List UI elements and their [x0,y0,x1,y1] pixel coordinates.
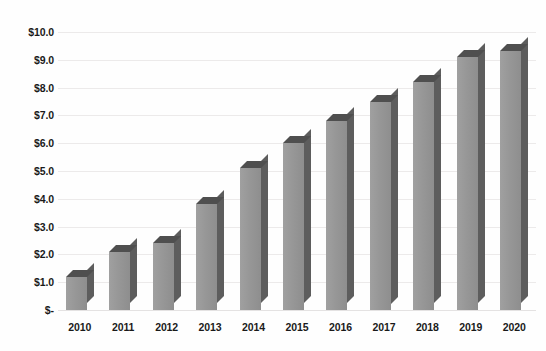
x-axis-tick-label: 2016 [329,321,352,333]
bar-side-face [391,88,398,304]
y-axis-tick-label: $6.0 [6,137,54,149]
bar-2012 [153,243,174,310]
x-axis-tick-label: 2015 [286,321,309,333]
bar-side-face [261,154,268,303]
y-axis-tick-label: $1.0 [6,276,54,288]
y-axis-tick-label: $- [6,304,54,316]
bar-front-face [240,168,261,310]
bar-side-face [87,263,94,303]
bar-2015 [283,143,304,310]
gridline [58,32,536,33]
bar-chart: $-$1.0$2.0$3.0$4.0$5.0$6.0$7.0$8.0$9.0$1… [0,0,546,351]
bar-2017 [370,102,391,311]
x-axis-tick-label: 2019 [459,321,482,333]
x-axis-tick-label: 2018 [416,321,439,333]
y-axis-tick-label: $4.0 [6,193,54,205]
x-axis-tick-label: 2020 [503,321,526,333]
bar-2019 [457,57,478,310]
y-axis-tick-label: $8.0 [6,82,54,94]
y-axis-tick-label: $9.0 [6,54,54,66]
x-axis-tick-label: 2010 [68,321,91,333]
bar-front-face [66,277,87,310]
bar-front-face [370,102,391,311]
bar-front-face [109,252,130,310]
plot-area [58,32,536,310]
bar-side-face [217,190,224,303]
bar-side-face [434,68,441,303]
bar-side-face [304,129,311,303]
bar-side-face [521,37,528,303]
bar-side-face [478,43,485,303]
bar-2020 [500,51,521,310]
bar-2013 [196,204,217,310]
x-axis-tick-label: 2013 [199,321,222,333]
bar-front-face [196,204,217,310]
x-axis-tick-label: 2017 [372,321,395,333]
y-axis-tick-label: $5.0 [6,165,54,177]
bar-2010 [66,277,87,310]
bar-2011 [109,252,130,310]
x-axis-tick-label: 2011 [112,321,134,333]
bar-side-face [347,107,354,303]
bar-front-face [413,82,434,310]
bar-2014 [240,168,261,310]
x-axis-tick-label: 2014 [242,321,265,333]
bar-front-face [153,243,174,310]
x-axis-tick-label: 2012 [155,321,178,333]
y-axis: $-$1.0$2.0$3.0$4.0$5.0$6.0$7.0$8.0$9.0$1… [0,0,54,351]
bar-front-face [457,57,478,310]
bar-front-face [500,51,521,310]
bar-2018 [413,82,434,310]
y-axis-tick-label: $2.0 [6,248,54,260]
bar-front-face [326,121,347,310]
y-axis-tick-label: $10.0 [6,26,54,38]
y-axis-tick-label: $3.0 [6,221,54,233]
gridline [58,310,536,311]
bar-2016 [326,121,347,310]
y-axis-tick-label: $7.0 [6,109,54,121]
bar-front-face [283,143,304,310]
